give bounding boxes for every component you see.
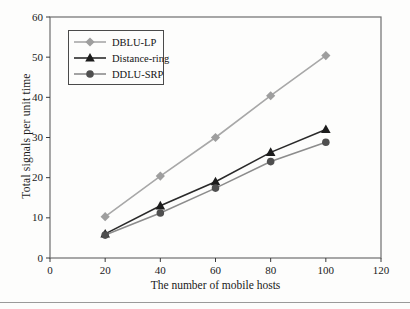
svg-text:40: 40 <box>155 264 167 276</box>
svg-text:20: 20 <box>100 264 112 276</box>
y-axis-label: Total signals per unit time <box>20 26 32 246</box>
legend-label: DDLU-SRP <box>112 69 163 80</box>
legend-label: Distance-ring <box>112 53 169 64</box>
svg-text:100: 100 <box>318 264 335 276</box>
circle-marker-icon <box>73 68 107 80</box>
svg-text:10: 10 <box>32 211 44 223</box>
page-divider-rule <box>0 299 410 303</box>
chart-plot-area: 0102030405060020406080100120 <box>0 0 410 296</box>
x-axis-label: The number of mobile hosts <box>50 279 381 291</box>
svg-text:0: 0 <box>38 252 44 264</box>
legend-label: DBLU-LP <box>112 37 156 48</box>
svg-text:120: 120 <box>373 264 390 276</box>
chart-legend: DBLU-LP Distance-ring DDLU-SRP <box>68 30 164 85</box>
svg-text:60: 60 <box>210 264 222 276</box>
line-chart-figure: 0102030405060020406080100120 Total signa… <box>0 0 410 296</box>
legend-item-ddlu-srp: DDLU-SRP <box>73 66 159 82</box>
diamond-marker-icon <box>73 36 107 48</box>
svg-text:20: 20 <box>32 171 44 183</box>
legend-item-distance-ring: Distance-ring <box>73 50 159 66</box>
svg-text:30: 30 <box>32 131 44 143</box>
legend-item-dblu-lp: DBLU-LP <box>73 34 159 50</box>
svg-text:50: 50 <box>32 51 44 63</box>
svg-text:0: 0 <box>47 264 53 276</box>
svg-text:80: 80 <box>265 264 277 276</box>
svg-text:40: 40 <box>32 91 44 103</box>
triangle-marker-icon <box>73 52 107 64</box>
svg-text:60: 60 <box>32 11 44 23</box>
